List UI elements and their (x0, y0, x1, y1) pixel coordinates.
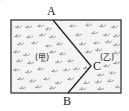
point-a-label: A (47, 5, 56, 17)
region-right-label: (乙) (100, 54, 114, 62)
region-left-label: (甲) (35, 54, 49, 62)
point-b-label: B (63, 95, 71, 107)
